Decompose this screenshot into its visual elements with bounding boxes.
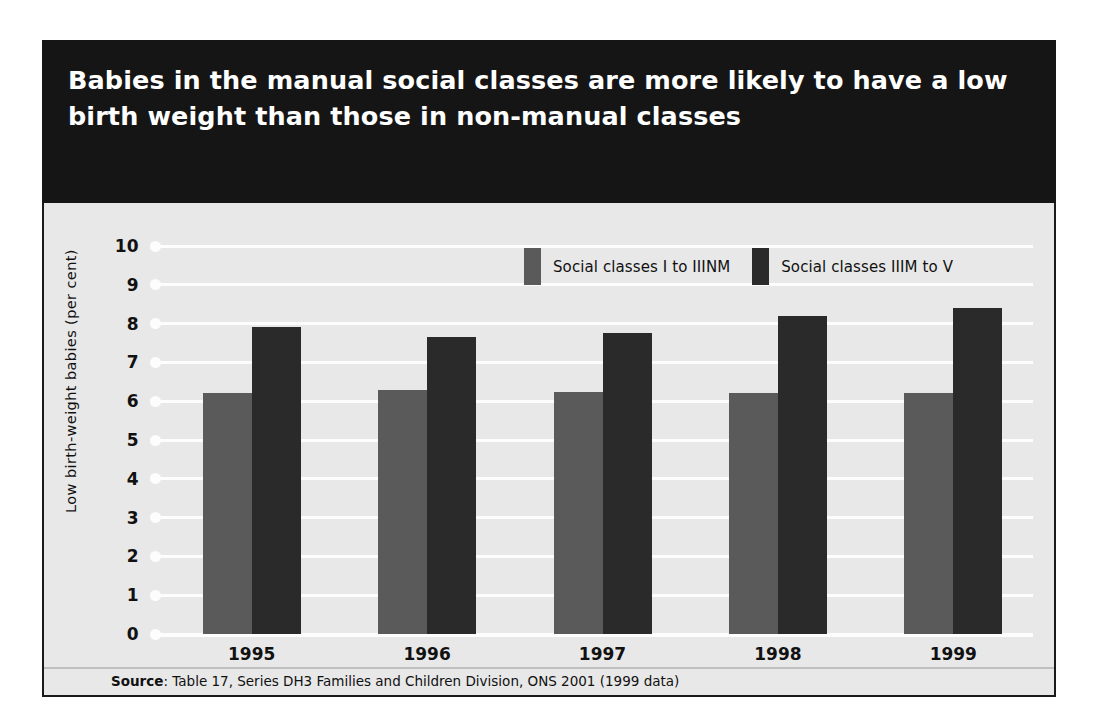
plot-area: 109876543210 (156, 246, 1033, 634)
x-tick-label: 1996 (378, 644, 476, 664)
bar-group (554, 246, 652, 634)
x-tick-label: 1997 (554, 644, 652, 664)
chart-panel: Low birth-weight babies (per cent) Socia… (42, 203, 1056, 697)
bar-groups (156, 246, 1033, 634)
y-axis-title: Low birth-weight babies (per cent) (63, 231, 79, 531)
bar-series-a (203, 393, 252, 634)
legend-label-series-b: Social classes IIIM to V (781, 258, 953, 276)
legend-label-series-a: Social classes I to IIINM (553, 258, 730, 276)
bar-series-a (378, 390, 427, 634)
y-tick-label: 9 (98, 275, 138, 295)
y-tick-label: 8 (98, 314, 138, 334)
y-tick-label: 7 (98, 352, 138, 372)
bar-series-b (778, 316, 827, 634)
source-note: Source: Table 17, Series DH3 Families an… (111, 673, 679, 689)
bar-series-b (953, 308, 1002, 634)
source-text: : Table 17, Series DH3 Families and Chil… (163, 673, 679, 689)
y-tick-label: 6 (98, 391, 138, 411)
bar-series-b (427, 337, 476, 634)
legend-swatch-series-b (752, 248, 769, 285)
bar-group (904, 246, 1002, 634)
y-tick-label: 0 (98, 624, 138, 644)
bar-series-b (603, 333, 652, 634)
y-tick-label: 5 (98, 430, 138, 450)
chart-title-band: Babies in the manual social classes are … (42, 40, 1056, 203)
bar-group (729, 246, 827, 634)
bar-group (203, 246, 301, 634)
page-title: Babies in the manual social classes are … (68, 62, 1030, 134)
y-tick-label: 10 (98, 236, 138, 256)
x-tick-label: 1998 (729, 644, 827, 664)
y-tick-label: 2 (98, 546, 138, 566)
figure: Babies in the manual social classes are … (42, 40, 1056, 697)
bar-series-a (554, 392, 603, 635)
bar-series-b (252, 327, 301, 634)
source-prefix: Source (111, 673, 163, 689)
bar-group (378, 246, 476, 634)
y-tick-label: 4 (98, 469, 138, 489)
legend-swatch-series-a (524, 248, 541, 285)
x-tick-label: 1995 (203, 644, 301, 664)
y-tick-label: 3 (98, 508, 138, 528)
bar-series-a (729, 393, 778, 634)
bar-series-a (904, 393, 953, 634)
source-divider (44, 667, 1054, 669)
chart-legend: Social classes I to IIINM Social classes… (524, 248, 953, 285)
y-tick-label: 1 (98, 585, 138, 605)
x-tick-label: 1999 (904, 644, 1002, 664)
legend-entry-series-b: Social classes IIIM to V (752, 248, 953, 285)
legend-entry-series-a: Social classes I to IIINM (524, 248, 730, 285)
x-axis-line (156, 634, 1033, 637)
